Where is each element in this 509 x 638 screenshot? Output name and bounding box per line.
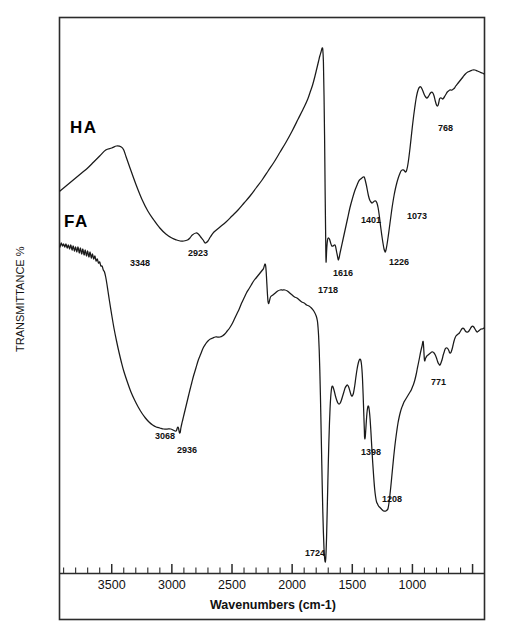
plot-outer-frame [60, 18, 485, 620]
x-tick-label-2000: 2000 [278, 578, 306, 592]
spectra-plot-svg [0, 0, 509, 638]
peak-label-ha-1616: 1616 [333, 268, 353, 278]
peak-label-fa-3068: 3068 [155, 431, 175, 441]
x-tick-label-2500: 2500 [218, 578, 246, 592]
peak-label-ha-1226: 1226 [389, 257, 409, 267]
peak-label-ha-1401: 1401 [361, 215, 381, 225]
fa-spectrum-curve [60, 243, 484, 562]
series-label-ha: HA [70, 118, 98, 138]
x-axis-title: Wavenumbers (cm-1) [210, 598, 336, 612]
x-tick-label-1000: 1000 [398, 578, 426, 592]
peak-label-fa-2936: 2936 [177, 445, 197, 455]
peak-label-ha-3348: 3348 [130, 258, 150, 268]
y-axis-title: TRANSMITTANCE % [14, 246, 26, 352]
ha-spectrum-curve [60, 48, 484, 262]
x-axis-ticks [64, 564, 473, 573]
x-tick-label-3000: 3000 [158, 578, 186, 592]
series-label-fa: FA [64, 212, 89, 232]
peak-label-fa-1208: 1208 [382, 494, 402, 504]
peak-label-ha-1718: 1718 [318, 285, 338, 295]
peak-label-ha-768: 768 [438, 123, 453, 133]
peak-label-ha-1073: 1073 [407, 211, 427, 221]
peak-label-ha-2923: 2923 [188, 248, 208, 258]
ftir-spectra-figure: HA FA 3348 2923 1718 1616 1401 1226 1073… [0, 0, 509, 638]
peak-label-fa-1724: 1724 [305, 548, 325, 558]
peak-label-fa-1398: 1398 [361, 447, 381, 457]
x-tick-label-3500: 3500 [98, 578, 126, 592]
peak-label-fa-771: 771 [431, 377, 446, 387]
x-tick-label-1500: 1500 [338, 578, 366, 592]
